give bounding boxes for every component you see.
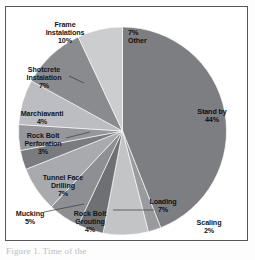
slice-label-shotcrete-instalation: Shotcrete Instalation 7% [14,66,74,90]
slice-label-rock-bolt-perforation: Rock Bolt Perforation 3% [12,132,74,156]
slice-label-other: 7% Other [128,29,162,45]
slice-label-rock-bolt-grouting: Rock Bolt Grouting 4% [60,210,120,234]
figure-root: Frame Instalations 10% 7% Other Shotcret… [0,0,255,260]
slice-label-marchiavanti: Marchiavanti 4% [8,110,76,126]
slice-label-loading: Loading 7% [144,198,182,214]
slice-label-stand-by: Stand by 44% [188,108,236,124]
chart-frame: Frame Instalations 10% 7% Other Shotcret… [5,6,248,241]
slice-label-frame-installations: Frame Instalations 10% [32,21,98,45]
slice-label-mucking: Mucking 5% [8,210,52,226]
slice-label-tunnel-face-drilling: Tunnel Face Drilling 7% [32,174,94,198]
slice-label-scaling: Scaling 2% [189,219,229,235]
figure-caption: Figure 1. Time of the [6,246,186,259]
